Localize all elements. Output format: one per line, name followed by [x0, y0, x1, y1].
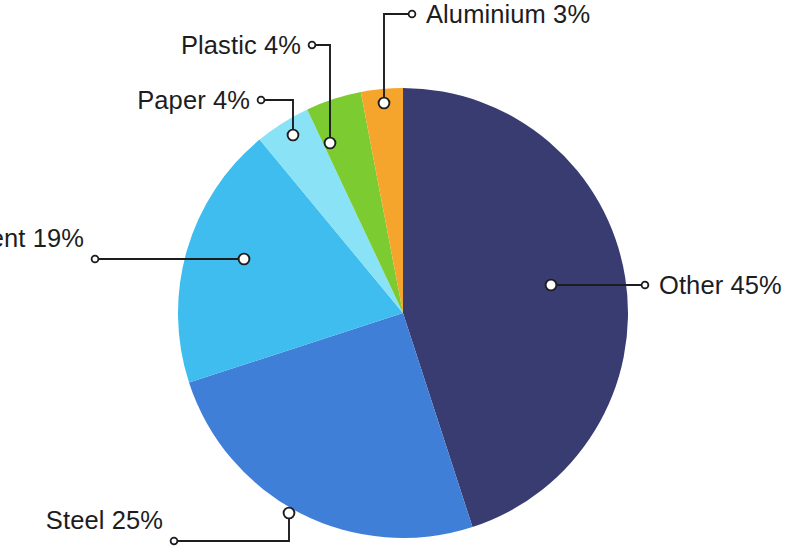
leader-dot-paper [288, 130, 299, 141]
label-other: Other 45% [659, 271, 782, 299]
leader-anchor-cement [92, 256, 99, 263]
leader-anchor-steel [171, 538, 178, 545]
leader-anchor-paper [258, 97, 265, 104]
leader-dot-other [546, 280, 557, 291]
leader-dot-steel [284, 508, 295, 519]
leader-dot-aluminium [379, 98, 390, 109]
callout-steel[interactable]: Steel 25% [46, 506, 295, 544]
label-cement: Cement 19% [0, 224, 84, 252]
pie-chart-canvas: Aluminium 3% Plastic 4% Paper 4% Cement … [0, 0, 785, 558]
leader-anchor-aluminium [409, 11, 416, 18]
leader-dot-cement [239, 254, 250, 265]
leader-dot-plastic [325, 138, 336, 149]
leader-anchor-plastic [309, 42, 316, 49]
leader-line-steel [178, 513, 289, 541]
label-plastic: Plastic 4% [181, 31, 301, 59]
pie-slices [178, 88, 628, 538]
leader-anchor-other [642, 282, 649, 289]
label-paper: Paper 4% [137, 86, 250, 114]
label-aluminium: Aluminium 3% [426, 0, 590, 28]
pie-chart-figure: Aluminium 3% Plastic 4% Paper 4% Cement … [0, 0, 785, 558]
label-steel: Steel 25% [46, 506, 163, 534]
